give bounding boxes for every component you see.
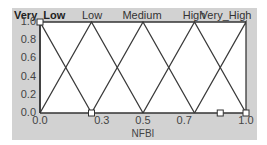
drag-handle[interactable] bbox=[89, 110, 95, 116]
drag-handle[interactable] bbox=[37, 19, 43, 25]
drag-handle[interactable] bbox=[217, 110, 223, 116]
plot-area bbox=[40, 22, 246, 113]
drag-handle[interactable] bbox=[243, 110, 249, 116]
membership-plot[interactable] bbox=[0, 0, 267, 145]
